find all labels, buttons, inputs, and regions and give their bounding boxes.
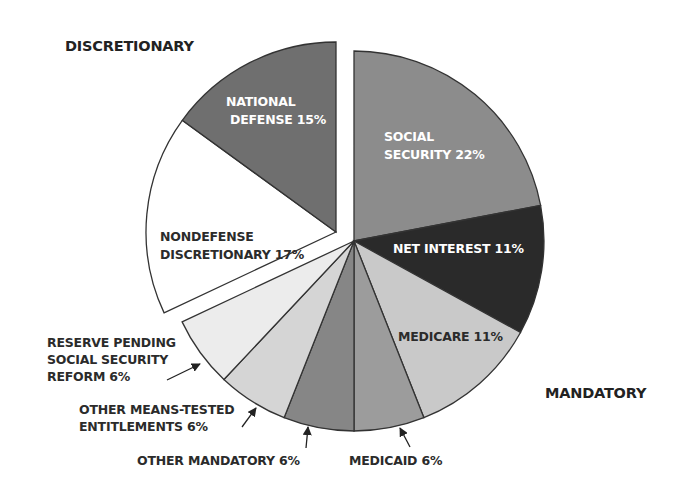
label-medicaid: MEDICAID 6% — [349, 453, 443, 468]
label-nondefense-2: DISCRETIONARY 17% — [160, 247, 305, 262]
label-social-security-1: SOCIAL — [384, 129, 434, 144]
arrow-other-means-tested — [242, 408, 256, 427]
group-label-discretionary: DISCRETIONARY — [65, 38, 195, 54]
label-national-defense-2: DEFENSE 15% — [230, 112, 327, 127]
label-reserve-pending-2: SOCIAL SECURITY — [47, 352, 169, 367]
label-net-interest: NET INTEREST 11% — [393, 241, 524, 256]
arrow-reserve-pending — [167, 364, 200, 380]
label-reserve-pending-3: REFORM 6% — [47, 369, 131, 384]
label-social-security-2: SECURITY 22% — [384, 147, 485, 162]
budget-pie-chart: DISCRETIONARY MANDATORY NATIONAL DEFENSE… — [0, 0, 696, 499]
group-label-mandatory: MANDATORY — [545, 385, 647, 401]
label-other-means-tested-1: OTHER MEANS-TESTED — [79, 402, 235, 417]
arrow-other-mandatory — [306, 427, 308, 448]
label-national-defense-1: NATIONAL — [226, 94, 296, 109]
label-other-means-tested-2: ENTITLEMENTS 6% — [79, 419, 208, 434]
arrow-medicaid — [400, 428, 410, 447]
label-other-mandatory: OTHER MANDATORY 6% — [137, 453, 301, 468]
label-medicare: MEDICARE 11% — [398, 329, 504, 344]
label-reserve-pending-1: RESERVE PENDING — [47, 335, 176, 350]
label-nondefense-1: NONDEFENSE — [160, 229, 254, 244]
